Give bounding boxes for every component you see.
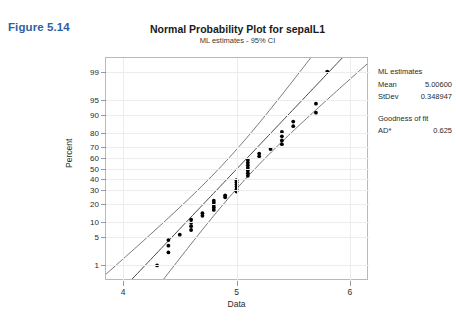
gridline-horizontal — [106, 204, 369, 205]
stdev-value: 0.348947 — [421, 91, 452, 104]
ad-label: AD* — [378, 125, 391, 138]
mean-row: Mean 5.00600 — [378, 79, 452, 92]
x-axis-tick — [237, 281, 238, 286]
normal-probability-plot: Normal Probability Plot for sepalL1 ML e… — [0, 0, 456, 329]
y-axis-title: Percent — [64, 139, 74, 168]
x-axis-tick — [350, 281, 351, 286]
y-axis-tick — [101, 169, 106, 170]
data-point — [291, 124, 295, 128]
y-axis-tick-label: 40 — [90, 175, 99, 184]
y-axis-tick-label: 1 — [95, 261, 99, 270]
gridline-horizontal — [106, 179, 369, 180]
y-axis-tick-label: 50 — [90, 164, 99, 173]
data-point — [280, 142, 284, 146]
chart-subtitle: ML estimates - 95% CI — [105, 36, 370, 45]
plot-frame: 151020304050607080909599456 — [105, 57, 368, 280]
data-point — [269, 147, 273, 151]
data-point — [212, 199, 216, 203]
stdev-row: StDev 0.348947 — [378, 91, 452, 104]
x-axis-title: Data — [105, 299, 368, 309]
ad-row: AD* 0.625 — [378, 125, 452, 138]
y-axis-tick-label: 90 — [90, 111, 99, 120]
data-point — [257, 152, 261, 156]
y-axis-tick — [101, 158, 106, 159]
chart-title: Normal Probability Plot for sepalL1 — [105, 23, 370, 35]
y-axis-tick — [101, 179, 106, 180]
data-point — [167, 244, 171, 248]
y-axis-tick — [101, 72, 106, 73]
y-axis-tick — [101, 147, 106, 148]
x-axis-tick-label: 4 — [121, 287, 126, 297]
data-point — [314, 111, 318, 115]
y-axis-tick-label: 99 — [90, 67, 99, 76]
x-axis-tick-label: 5 — [234, 287, 239, 297]
y-axis-tick — [101, 133, 106, 134]
gridline-horizontal — [106, 222, 369, 223]
data-point — [280, 134, 284, 138]
mean-label: Mean — [378, 79, 397, 92]
data-point — [201, 211, 205, 215]
stdev-label: StDev — [378, 91, 398, 104]
gridline-horizontal — [106, 100, 369, 101]
data-point — [167, 251, 171, 255]
y-axis-tick-label: 70 — [90, 142, 99, 151]
gridline-horizontal — [106, 133, 369, 134]
ad-value: 0.625 — [433, 125, 452, 138]
gridline-horizontal — [106, 169, 369, 170]
mean-value: 5.00600 — [425, 79, 452, 92]
y-axis-tick — [101, 222, 106, 223]
y-axis-tick-label: 10 — [90, 217, 99, 226]
goodness-of-fit-header: Goodness of fit — [378, 113, 452, 126]
y-axis-tick-label: 95 — [90, 95, 99, 104]
y-axis-tick — [101, 265, 106, 266]
y-axis-tick-label: 5 — [95, 233, 99, 242]
statistics-legend: ML estimates Mean 5.00600 StDev 0.348947… — [378, 66, 452, 147]
data-point — [189, 224, 193, 228]
y-axis-tick-label: 20 — [90, 199, 99, 208]
y-axis-tick — [101, 115, 106, 116]
y-axis-tick — [101, 237, 106, 238]
data-point — [167, 238, 171, 242]
data-point — [291, 120, 295, 124]
data-point — [223, 193, 227, 197]
gridline-horizontal — [106, 158, 369, 159]
gridline-horizontal — [106, 190, 369, 191]
y-axis-tick-label: 80 — [90, 129, 99, 138]
gridline-horizontal — [106, 72, 369, 73]
x-axis-tick — [123, 281, 124, 286]
gridline-horizontal — [106, 237, 369, 238]
ml-estimates-header: ML estimates — [378, 66, 452, 79]
y-axis-tick — [101, 100, 106, 101]
gridline-vertical — [350, 58, 351, 281]
data-point — [280, 139, 284, 143]
y-axis-tick-label: 30 — [90, 186, 99, 195]
data-point — [314, 102, 318, 106]
gridline-horizontal — [106, 115, 369, 116]
data-point — [189, 228, 193, 232]
gridline-horizontal — [106, 147, 369, 148]
gridline-vertical — [237, 58, 238, 281]
x-axis-tick-label: 6 — [348, 287, 353, 297]
gridline-horizontal — [106, 265, 369, 266]
gridline-vertical — [123, 58, 124, 281]
y-axis-tick — [101, 204, 106, 205]
goodness-of-fit-group: Goodness of fit AD* 0.625 — [378, 113, 452, 138]
y-axis-tick — [101, 190, 106, 191]
ml-estimates-group: ML estimates Mean 5.00600 StDev 0.348947 — [378, 66, 452, 104]
y-axis-tick-label: 60 — [90, 153, 99, 162]
